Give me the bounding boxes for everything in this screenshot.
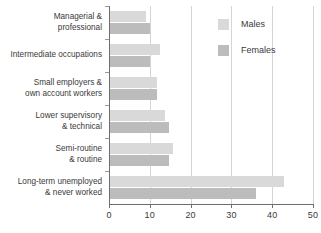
chart-legend: Males Females [218,14,316,66]
legend-swatch-males-icon [218,19,229,30]
category-labels: Managerial & professionalIntermediate oc… [0,6,102,204]
legend-label-males: Males [241,19,265,29]
bar-females [109,23,150,34]
legend-label-females: Females [241,45,276,55]
y-tick-mark [105,138,109,139]
category-label: Long-term unemployed & never worked [0,177,102,197]
bar-females [109,89,157,100]
bar-males [109,11,146,22]
bar-males [109,176,284,187]
x-tick-mark [191,204,192,208]
category-label: Lower supervisory & technical [0,111,102,131]
legend-item-males[interactable]: Males [218,14,316,34]
x-tick-label: 10 [145,210,155,220]
category-label: Small employers & own account workers [0,78,102,98]
x-tick-label: 20 [185,210,195,220]
bar-females [109,188,256,199]
x-tick-mark [313,204,314,208]
x-tick-mark [272,204,273,208]
y-tick-mark [105,171,109,172]
x-tick-mark [150,204,151,208]
gridline [191,6,192,204]
y-tick-mark [105,6,109,7]
x-axis-line [109,204,314,205]
x-tick-label: 50 [308,210,318,220]
y-axis-line [109,6,110,204]
bar-males [109,77,157,88]
bar-males [109,110,165,121]
bar-males [109,143,173,154]
y-tick-mark [105,72,109,73]
grouped-bar-chart: 01020304050 Managerial & professionalInt… [0,0,321,233]
bar-females [109,155,169,166]
category-label: Semi-routine & routine [0,144,102,164]
category-label: Managerial & professional [0,12,102,32]
bar-females [109,56,150,67]
bar-males [109,44,160,55]
x-tick-label: 30 [226,210,236,220]
x-tick-label: 40 [267,210,277,220]
x-tick-mark [109,204,110,208]
bar-females [109,122,169,133]
legend-item-females[interactable]: Females [218,40,316,60]
legend-swatch-females-icon [218,45,229,56]
category-label: Intermediate occupations [0,50,102,60]
y-tick-mark [105,39,109,40]
x-tick-mark [231,204,232,208]
gridline [150,6,151,204]
x-tick-label: 0 [106,210,111,220]
y-tick-mark [105,105,109,106]
